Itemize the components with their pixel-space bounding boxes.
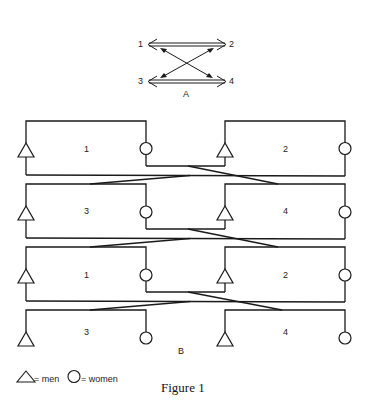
panel-b-label: B [178,346,184,356]
circle-icon [140,206,152,218]
circle-icon [68,371,80,383]
node-label-4: 4 [229,76,234,86]
kinship-figure: 1 2 3 4 A [0,0,367,401]
circle-icon [339,269,351,281]
circle-icon [339,206,351,218]
box-label-row4-right: 4 [283,327,288,337]
box-label-row2-left: 3 [84,206,89,216]
connectors-row1-row2 [26,166,345,184]
legend-men-label: = men [34,374,59,384]
row-1 [26,121,345,176]
box-label-row2-right: 4 [283,206,288,216]
node-label-1: 1 [138,39,143,49]
triangle-icon [18,269,34,283]
figure-caption: Figure 1 [161,380,205,395]
triangle-icon [217,206,233,220]
node-label-3: 3 [138,76,143,86]
triangle-icon [18,206,34,220]
circle-icon [140,143,152,155]
legend-women-label: = women [81,374,118,384]
double-arrow-1-2 [148,39,226,50]
connectors-row2-row3 [26,229,345,247]
box-2-top-frame [225,121,345,143]
box-1-top-frame [26,121,146,143]
panel-b [18,121,351,346]
panel-a: 1 2 3 4 A [138,39,234,99]
box-label-row1-right: 2 [283,144,288,154]
triangle-icon [217,269,233,283]
legend: = men = women [17,371,118,385]
triangle-icon [217,332,233,346]
circle-icon [140,332,152,344]
panel-a-label: A [183,89,189,99]
connectors-row3-row4 [26,292,345,310]
double-arrow-3-4 [148,76,226,87]
circle-icon [339,143,351,155]
circle-icon [339,332,351,344]
box-label-row3-left: 1 [84,270,89,280]
triangle-icon [18,143,34,157]
triangle-icon [17,371,35,382]
triangle-icon [18,332,34,346]
node-label-2: 2 [229,39,234,49]
row-4 [26,310,345,332]
circle-icon [140,269,152,281]
box-label-row4-left: 3 [84,327,89,337]
women-symbols [140,143,351,345]
triangle-icon [217,143,233,157]
box-label-row1-left: 1 [84,144,89,154]
box-label-row3-right: 2 [283,270,288,280]
row-3 [26,247,345,302]
row-2 [26,184,345,239]
